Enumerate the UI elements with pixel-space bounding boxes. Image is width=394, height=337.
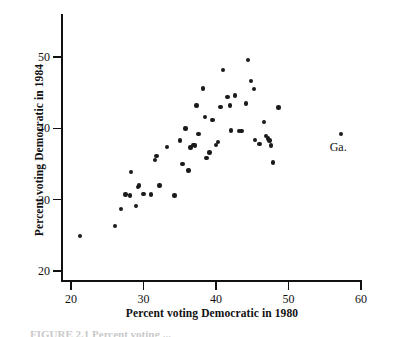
data-point	[203, 115, 207, 119]
data-point	[201, 86, 205, 90]
data-point	[129, 170, 133, 174]
data-point	[276, 105, 280, 109]
scatter-plot-figure: Percent voting Democratic in 1984 Percen…	[0, 0, 394, 337]
data-point	[119, 207, 123, 211]
data-point	[216, 140, 220, 144]
data-point	[128, 193, 132, 197]
data-point	[262, 120, 266, 124]
data-point	[153, 158, 157, 162]
data-point	[257, 142, 261, 146]
data-point	[141, 192, 145, 196]
data-point	[183, 126, 187, 130]
data-point	[253, 138, 257, 142]
data-point	[267, 138, 271, 142]
data-point	[123, 192, 127, 196]
data-point	[137, 183, 141, 187]
data-point	[252, 87, 256, 91]
data-point	[269, 143, 273, 147]
data-point	[186, 168, 190, 172]
data-point	[193, 143, 197, 147]
data-point-layer	[0, 0, 394, 337]
data-point	[244, 101, 248, 105]
data-point	[339, 132, 343, 136]
data-point	[172, 193, 176, 197]
data-point	[134, 204, 138, 208]
data-point	[233, 93, 237, 97]
data-point	[157, 183, 161, 187]
data-point	[271, 160, 275, 164]
data-point	[113, 224, 117, 228]
data-point	[180, 162, 184, 166]
data-point	[210, 118, 214, 122]
data-point	[229, 128, 233, 132]
georgia-annotation-label: Ga.	[330, 141, 347, 153]
data-point	[154, 154, 158, 158]
data-point	[228, 103, 232, 107]
data-point	[196, 132, 200, 136]
data-point	[239, 129, 243, 133]
data-point	[246, 58, 250, 62]
data-point	[204, 156, 208, 160]
data-point	[249, 79, 253, 83]
figure-caption: FIGURE 2.1 Percent voting ...	[30, 328, 171, 337]
data-point	[225, 95, 229, 99]
data-point	[207, 150, 211, 154]
data-point	[78, 234, 82, 238]
data-point	[221, 68, 225, 72]
data-point	[218, 105, 222, 109]
data-point	[178, 138, 182, 142]
data-point	[194, 103, 198, 107]
data-point	[165, 145, 169, 149]
data-point	[149, 192, 153, 196]
